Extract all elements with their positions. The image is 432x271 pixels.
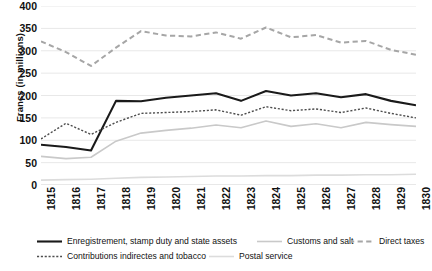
chart-canvas (41, 6, 416, 185)
chart-legend: Enregistrement, stamp duty and state ass… (0, 234, 420, 271)
legend-label: Enregistrement, stamp duty and state ass… (67, 237, 237, 246)
x-tick-label: 1829 (396, 187, 407, 210)
legend-item[interactable]: Postal service (208, 249, 293, 264)
x-tick-label: 1815 (46, 187, 57, 210)
x-tick-label: 1820 (171, 187, 182, 210)
y-tick-label: 350 (19, 23, 37, 34)
y-tick-label: 150 (19, 113, 37, 124)
legend-label: Contributions indirectes and tobacco (67, 252, 206, 261)
x-tick-label: 1827 (346, 187, 357, 210)
y-tick-label: 400 (19, 1, 37, 12)
y-tick-label: 0 (31, 180, 37, 191)
x-tick-label: 1819 (146, 187, 157, 210)
legend-line-swatch-icon (256, 237, 283, 246)
y-tick-label: 50 (25, 157, 37, 168)
legend-label: Customs and salt (287, 237, 353, 246)
legend-line-swatch-icon (208, 252, 235, 261)
x-axis-tick-labels: 1815181618171818181918201821182218231824… (41, 187, 416, 229)
legend-item[interactable]: Contributions indirectes and tobacco (36, 249, 206, 264)
series-line (41, 27, 416, 65)
legend-label: Postal service (239, 252, 293, 261)
x-tick-label: 1824 (271, 187, 282, 210)
legend-item[interactable]: Direct taxes (348, 234, 424, 249)
y-tick-label: 300 (19, 46, 37, 57)
x-tick-label: 1828 (371, 187, 382, 210)
y-tick-label: 250 (19, 68, 37, 79)
x-tick-label: 1826 (321, 187, 332, 210)
plot-area (41, 6, 416, 185)
x-tick-label: 1825 (296, 187, 307, 210)
series-line (41, 91, 416, 151)
x-tick-label: 1816 (71, 187, 82, 210)
y-tick-label: 100 (19, 135, 37, 146)
x-tick-label: 1823 (246, 187, 257, 210)
legend-line-swatch-icon (36, 237, 63, 246)
legend-line-swatch-icon (36, 252, 63, 261)
series-line (41, 107, 416, 139)
y-axis-tick-labels: 400350300250200150100500 (0, 0, 41, 191)
x-tick-label: 1830 (421, 187, 432, 210)
legend-label: Direct taxes (379, 237, 424, 246)
legend-item[interactable]: Customs and salt (256, 234, 353, 249)
x-tick-label: 1818 (121, 187, 132, 210)
x-tick-label: 1822 (221, 187, 232, 210)
series-line (41, 174, 416, 180)
legend-row-primary: Enregistrement, stamp duty and state ass… (0, 234, 420, 249)
legend-row-secondary: Contributions indirectes and tobaccoPost… (0, 249, 420, 264)
y-tick-label: 200 (19, 90, 37, 101)
x-tick-label: 1821 (196, 187, 207, 210)
legend-line-swatch-icon (348, 237, 375, 246)
legend-item[interactable]: Enregistrement, stamp duty and state ass… (36, 234, 237, 249)
x-tick-label: 1817 (96, 187, 107, 210)
